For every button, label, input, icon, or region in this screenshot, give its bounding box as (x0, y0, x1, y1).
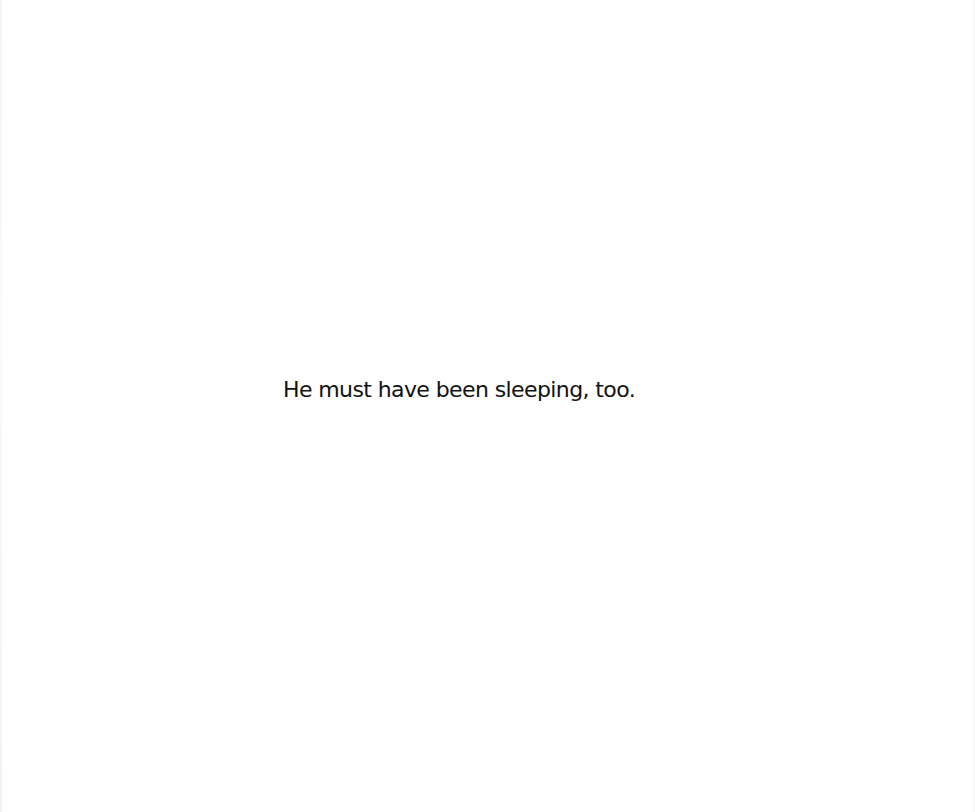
page-text: He must have been sleeping, too. (283, 374, 635, 406)
page-edge-left (0, 0, 2, 812)
book-page: He must have been sleeping, too. (0, 0, 975, 812)
